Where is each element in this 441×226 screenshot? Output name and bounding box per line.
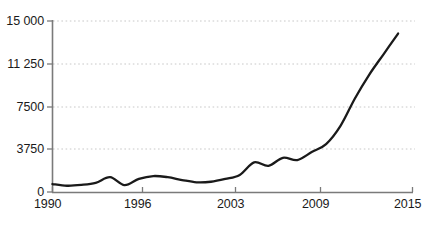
plot-area (0, 0, 441, 226)
y-axis (47, 20, 53, 193)
x-axis (52, 187, 413, 193)
data-line-series-1 (53, 34, 399, 186)
gridlines (53, 21, 415, 149)
line-chart: 15 000 11 250 7500 3750 0 1990 1996 2003… (0, 0, 441, 226)
